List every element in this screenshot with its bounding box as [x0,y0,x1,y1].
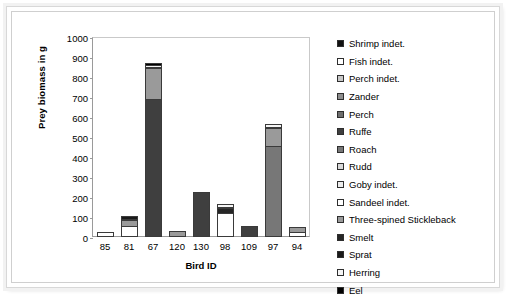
legend-swatch-icon [337,181,344,188]
figure-inner-border: Prey biomass in g 858167120130981099794 … [11,11,495,283]
stacked-bar[interactable] [289,227,306,236]
figure-frame: Prey biomass in g 858167120130981099794 … [6,6,500,288]
legend-item[interactable]: Three-spined Stickleback [337,211,489,229]
stacked-bar[interactable] [265,124,282,236]
bar-column[interactable]: 120 [166,38,188,236]
bar-segment[interactable] [121,226,138,237]
bar-segment[interactable] [217,213,234,237]
y-axis-tick-label: 100 [72,213,88,224]
legend-label: Perch [349,109,374,120]
stacked-bar[interactable] [145,63,162,236]
y-axis-tick-mark [90,138,93,139]
legend-label: Goby indet. [349,179,398,190]
bar-column[interactable]: 97 [262,38,284,236]
bar-segment[interactable] [241,226,258,237]
legend-item[interactable]: Roach [337,141,489,159]
x-axis-tick-label: 109 [241,241,257,252]
x-axis-tick-label: 130 [193,241,209,252]
x-axis-tick-label: 85 [100,241,111,252]
y-axis-tick-label: 900 [72,53,88,64]
x-axis-title: Bird ID [92,260,310,271]
legend-item[interactable]: Perch indet. [337,70,489,88]
legend-label: Sprat [349,249,372,260]
legend-label: Three-spined Stickleback [349,214,456,225]
legend-item[interactable]: Smelt [337,229,489,247]
legend-item[interactable]: Rudd [337,158,489,176]
x-axis-tick-label: 67 [148,241,159,252]
legend-item[interactable]: Zander [337,88,489,106]
legend-item[interactable]: Herring [337,264,489,282]
bar-column[interactable]: 109 [238,38,260,236]
bar-column[interactable]: 67 [142,38,164,236]
y-axis-tick-mark [90,98,93,99]
legend-item[interactable]: Sandeel indet. [337,193,489,211]
y-axis-tick-mark [90,158,93,159]
bar-column[interactable]: 85 [94,38,116,236]
legend-swatch-icon [337,40,344,47]
legend-swatch-icon [337,128,344,135]
x-axis-tick-label: 98 [220,241,231,252]
bar-group: 858167120130981099794 [93,38,309,236]
x-axis-tick-label: 94 [292,241,303,252]
legend-label: Ruffe [349,126,372,137]
bar-segment[interactable] [265,128,282,147]
legend-label: Smelt [349,232,373,243]
bar-segment[interactable] [145,68,162,100]
stacked-bar[interactable] [217,204,234,236]
bar-segment[interactable] [289,232,306,236]
y-axis-tick-label: 700 [72,93,88,104]
legend-item[interactable]: Eel [337,281,489,299]
bar-segment[interactable] [193,192,210,236]
legend-label: Shrimp indet. [349,38,405,49]
y-axis-tick-label: 500 [72,133,88,144]
legend-swatch-icon [337,199,344,206]
stacked-bar[interactable] [121,216,138,236]
y-axis-tick-mark [90,218,93,219]
legend-label: Herring [349,267,380,278]
legend-label: Zander [349,91,379,102]
legend-item[interactable]: Shrimp indet. [337,35,489,53]
legend-item[interactable]: Ruffe [337,123,489,141]
plot-area: 858167120130981099794 010020030040050060… [92,37,310,237]
y-axis-tick-label: 200 [72,193,88,204]
legend-label: Sandeel indet. [349,197,410,208]
legend-item[interactable]: Fish indet. [337,53,489,71]
y-axis-tick-mark [90,178,93,179]
y-axis-tick-mark [90,238,93,239]
y-axis-tick-mark [90,198,93,199]
y-axis-tick-mark [90,58,93,59]
stacked-bar-chart: Prey biomass in g 858167120130981099794 … [12,12,498,286]
legend-swatch-icon [337,287,344,294]
y-axis-tick-label: 400 [72,153,88,164]
stacked-bar[interactable] [241,226,258,236]
legend-swatch-icon [337,251,344,258]
x-axis-tick-label: 120 [169,241,185,252]
y-axis-tick-label: 600 [72,113,88,124]
bar-column[interactable]: 98 [214,38,236,236]
stacked-bar[interactable] [169,231,186,236]
stacked-bar[interactable] [97,232,114,236]
bar-column[interactable]: 81 [118,38,140,236]
bar-column[interactable]: 94 [286,38,308,236]
x-axis-tick-label: 81 [124,241,135,252]
legend-label: Perch indet. [349,73,400,84]
legend-swatch-icon [337,163,344,170]
stacked-bar[interactable] [193,192,210,236]
bar-segment[interactable] [145,99,162,237]
bar-column[interactable]: 130 [190,38,212,236]
y-axis-tick-mark [90,78,93,79]
legend-swatch-icon [337,58,344,65]
legend-swatch-icon [337,234,344,241]
legend-label: Fish indet. [349,56,393,67]
legend-swatch-icon [337,111,344,118]
legend-item[interactable]: Goby indet. [337,176,489,194]
bar-segment[interactable] [169,231,186,237]
legend-item[interactable]: Sprat [337,246,489,264]
y-axis-tick-mark [90,118,93,119]
bar-segment[interactable] [97,232,114,237]
legend-item[interactable]: Perch [337,105,489,123]
legend-swatch-icon [337,216,344,223]
chart-legend: Shrimp indet.Fish indet.Perch indet.Zand… [337,35,489,299]
y-axis-title: Prey biomass in g [36,33,47,143]
bar-segment[interactable] [265,146,282,237]
